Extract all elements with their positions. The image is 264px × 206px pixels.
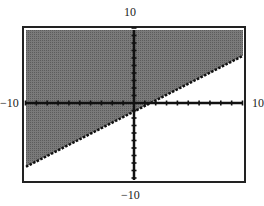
inequality-graph xyxy=(0,0,264,206)
